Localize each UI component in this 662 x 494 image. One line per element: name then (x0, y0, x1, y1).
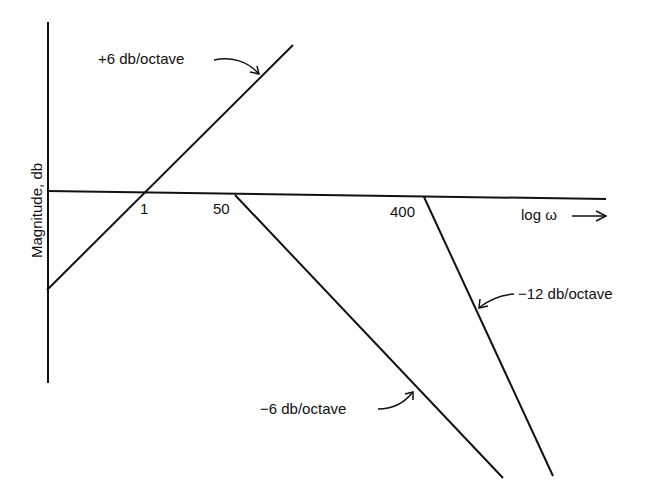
plus6-annotation: +6 db/octave (98, 50, 184, 67)
y-axis-label: Magnitude, db (28, 163, 45, 258)
minus-12-line (424, 197, 553, 476)
x-axis-label: log ω (521, 206, 557, 223)
plus6-leader (214, 59, 258, 73)
tick-label-400: 400 (390, 203, 415, 220)
minus-6-line (235, 195, 503, 478)
bode-diagram (0, 0, 662, 494)
x-axis (47, 191, 606, 199)
minus12-annotation: −12 db/octave (518, 285, 613, 302)
minus12-leader (480, 294, 514, 307)
minus6-annotation: −6 db/octave (260, 400, 346, 417)
tick-label-1: 1 (140, 200, 148, 217)
tick-label-50: 50 (213, 200, 230, 217)
minus6-leader (378, 393, 412, 409)
plus-6-line (47, 45, 293, 290)
